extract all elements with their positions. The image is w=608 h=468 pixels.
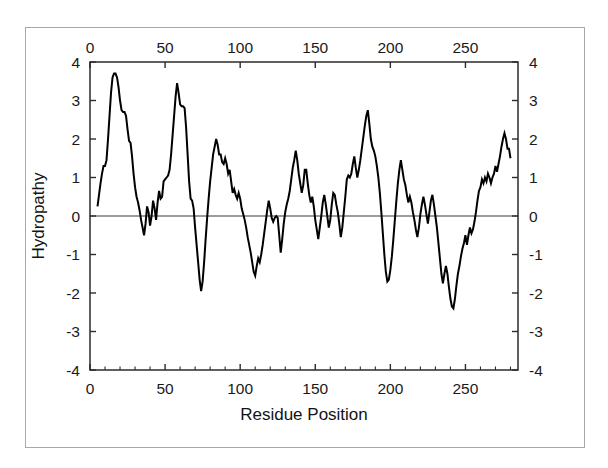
x-tick-label-top: 250 [453, 39, 479, 56]
x-tick-label-bottom: 0 [86, 380, 95, 397]
hydropathy-curve [98, 74, 511, 309]
x-tick-label-top: 50 [156, 39, 174, 56]
y-axis-title: Hydropathy [29, 172, 48, 259]
y-tick-label-left: 2 [71, 131, 80, 148]
y-tick-label-left: -3 [66, 323, 80, 340]
x-tick-label-top: 0 [86, 39, 95, 56]
x-tick-label-bottom: 50 [156, 380, 174, 397]
y-tick-label-left: 1 [71, 169, 80, 186]
y-tick-label-right: 4 [529, 54, 538, 71]
x-tick-label-top: 200 [377, 39, 403, 56]
x-tick-label-bottom: 200 [377, 380, 403, 397]
x-tick-label-bottom: 150 [302, 380, 328, 397]
y-tick-label-right: -3 [529, 323, 543, 340]
y-tick-label-left: -4 [66, 362, 80, 379]
y-tick-label-left: -2 [66, 285, 80, 302]
y-tick-label-left: 0 [71, 208, 80, 225]
x-tick-label-top: 100 [227, 39, 253, 56]
y-tick-label-right: -2 [529, 285, 543, 302]
y-tick-label-right: 0 [529, 208, 538, 225]
y-tick-label-right: -4 [529, 362, 543, 379]
y-tick-label-right: 2 [529, 131, 538, 148]
hydropathy-chart: 0050501001001501502002002502504433221100… [0, 0, 608, 468]
y-tick-label-right: 1 [529, 169, 538, 186]
y-tick-label-right: 3 [529, 92, 538, 109]
y-tick-label-left: 3 [71, 92, 80, 109]
y-tick-label-left: -1 [66, 246, 80, 263]
y-tick-label-left: 4 [71, 54, 80, 71]
x-tick-label-bottom: 250 [453, 380, 479, 397]
axis-tick-labels: 0050501001001501502002002502504433221100… [66, 39, 543, 397]
x-tick-label-bottom: 100 [227, 380, 253, 397]
y-tick-label-right: -1 [529, 246, 543, 263]
x-axis-title: Residue Position [240, 405, 368, 424]
figure-root: 0050501001001501502002002502504433221100… [0, 0, 608, 468]
x-tick-label-top: 150 [302, 39, 328, 56]
